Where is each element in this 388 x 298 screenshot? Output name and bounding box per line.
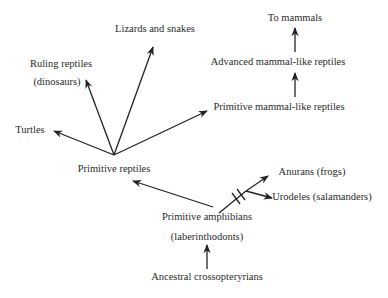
break-mark-2 bbox=[237, 189, 245, 200]
break-mark-1 bbox=[232, 193, 240, 204]
label-primitive-reptiles: Primitive reptiles bbox=[78, 164, 151, 175]
label-advanced-mammal-like: Advanced mammal-like reptiles bbox=[211, 57, 346, 68]
arrow-to-ruling-reptiles bbox=[86, 80, 114, 155]
arrow-to-urodeles bbox=[246, 191, 272, 198]
label-primitive-amphibians: Primitive amphibians bbox=[162, 212, 252, 223]
diagram-arrows bbox=[0, 0, 388, 298]
label-ancestral: Ancestral crossopteryrians bbox=[151, 272, 263, 283]
arrow-to-turtles bbox=[54, 131, 114, 155]
label-primitive-mammal-like: Primitive mammal-like reptiles bbox=[213, 102, 344, 113]
arrow-to-primitive-reptiles bbox=[133, 181, 213, 207]
label-anurans: Anurans (frogs) bbox=[279, 167, 346, 178]
label-lizards: Lizards and snakes bbox=[115, 24, 195, 35]
label-ruling-reptiles: Ruling reptiles bbox=[30, 59, 92, 70]
label-laberinthodonts: (laberinthodonts) bbox=[171, 232, 243, 243]
label-urodeles: Urodeles (salamanders) bbox=[272, 192, 371, 203]
arrow-to-anurans bbox=[246, 176, 268, 191]
label-turtles: Turtles bbox=[15, 125, 44, 136]
label-dinosaurs: (dinosaurs) bbox=[33, 77, 80, 88]
label-to-mammals: To mammals bbox=[268, 13, 322, 24]
